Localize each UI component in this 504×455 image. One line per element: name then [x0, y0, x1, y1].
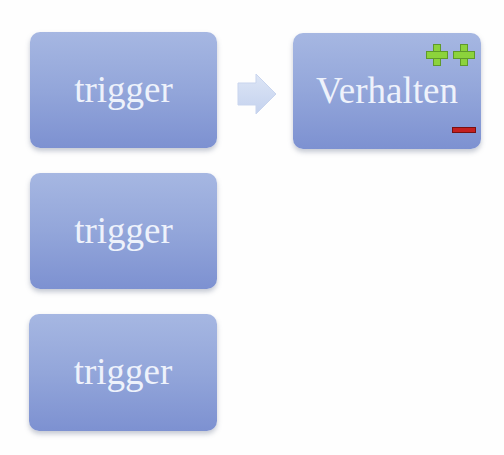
trigger-box-2: trigger	[30, 173, 217, 289]
plus-icon	[426, 44, 448, 66]
plus-icon	[453, 44, 475, 66]
trigger-label: trigger	[74, 353, 173, 390]
behavior-label: Verhalten	[316, 72, 458, 109]
trigger-label: trigger	[74, 212, 173, 249]
trigger-label: trigger	[74, 71, 173, 108]
diagram-canvas: trigger trigger trigger Verhalten	[0, 0, 504, 455]
trigger-box-1: trigger	[30, 32, 217, 148]
minus-icon	[452, 127, 476, 133]
right-arrow-icon	[236, 72, 278, 116]
trigger-box-3: trigger	[29, 314, 217, 431]
